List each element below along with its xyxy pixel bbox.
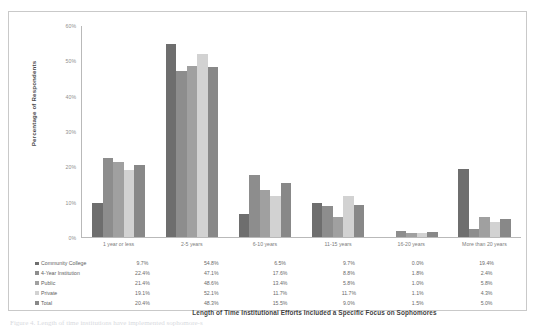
bar[interactable] [239, 214, 250, 237]
table-cell-value: 48.6% [177, 280, 246, 286]
legend-item[interactable]: Private [35, 290, 108, 296]
table-cell-value: 11.7% [314, 290, 383, 296]
table-cell-value: 19.1% [108, 290, 177, 296]
bar[interactable] [406, 233, 417, 237]
x-axis-category-label: 6-10 years [228, 241, 301, 247]
bar[interactable] [322, 206, 333, 237]
table-cell-value: 52.1% [177, 290, 246, 296]
legend-swatch-icon [35, 291, 39, 295]
table-cell-value: 21.4% [108, 280, 177, 286]
bar[interactable] [92, 203, 103, 237]
legend-item[interactable]: Total [35, 300, 108, 306]
y-axis-tick-label: 10% [66, 200, 76, 206]
bar-group [228, 26, 301, 237]
bar-group [375, 26, 448, 237]
x-axis-category-label: 2-5 years [155, 241, 228, 247]
bar[interactable] [197, 54, 208, 237]
bar[interactable] [458, 169, 469, 237]
y-axis-tick-label: 0% [69, 235, 77, 241]
bar[interactable] [343, 196, 354, 237]
legend-item-label: Community College [41, 260, 86, 266]
y-axis-tick-label: 30% [66, 129, 76, 135]
table-cell-value: 47.1% [177, 270, 246, 276]
bar[interactable] [281, 183, 292, 238]
bar[interactable] [333, 217, 344, 237]
legend-swatch-icon [35, 301, 39, 305]
y-axis-tick-label: 60% [66, 23, 76, 29]
table-row: Community College9.7%54.8%6.5%9.7%0.0%19… [35, 259, 521, 268]
x-axis-category-label: 1 year or less [82, 241, 155, 247]
bar-group [448, 26, 521, 237]
table-cell-value: 54.8% [177, 260, 246, 266]
legend-swatch-icon [35, 271, 39, 275]
table-cell-value: 15.5% [246, 300, 315, 306]
x-axis-category-label: 16-20 years [375, 241, 448, 247]
bar[interactable] [312, 203, 323, 237]
table-cell-value: 17.6% [246, 270, 315, 276]
table-cell-value: 48.3% [177, 300, 246, 306]
bar-group [82, 26, 155, 237]
bar-group [302, 26, 375, 237]
bar[interactable] [417, 233, 428, 237]
x-axis-title: Length of Time Institutional Efforts Inc… [108, 309, 521, 316]
table-cell-value: 9.0% [314, 300, 383, 306]
bar[interactable] [176, 71, 187, 237]
table-cell-value: 1.8% [383, 270, 452, 276]
bar[interactable] [249, 175, 260, 237]
table-cell-value: 5.8% [314, 280, 383, 286]
legend-item[interactable]: Public [35, 280, 108, 286]
table-cell-value: 8.8% [314, 270, 383, 276]
table-row: Public21.4%48.6%13.4%5.8%1.0%5.8% [35, 279, 521, 288]
bar-group [155, 26, 228, 237]
x-axis-line [81, 237, 521, 238]
table-row: Private19.1%52.1%11.7%11.7%1.1%4.3% [35, 289, 521, 298]
bar[interactable] [479, 217, 490, 237]
table-cell-value: 1.5% [383, 300, 452, 306]
bar[interactable] [490, 222, 501, 237]
bar[interactable] [166, 44, 177, 237]
bar[interactable] [396, 231, 407, 237]
x-axis-category-labels: 1 year or less2-5 years6-10 years11-15 y… [82, 241, 521, 247]
table-cell-value: 20.4% [108, 300, 177, 306]
bar[interactable] [187, 66, 198, 237]
table-cell-value: 9.7% [314, 260, 383, 266]
table-cell-value: 1.0% [383, 280, 452, 286]
table-cell-value: 19.4% [452, 260, 521, 266]
table-cell-value: 11.7% [246, 290, 315, 296]
bar[interactable] [208, 67, 219, 237]
bar[interactable] [124, 170, 135, 237]
bar-series-container [82, 26, 521, 237]
figure-frame: Percentage of Respondents 0%10%20%30%40%… [8, 11, 527, 311]
table-cell-value: 22.4% [108, 270, 177, 276]
legend-item[interactable]: 4-Year Institution [35, 270, 108, 276]
table-cell-value: 2.4% [452, 270, 521, 276]
bar[interactable] [270, 196, 281, 237]
table-row: 4-Year Institution22.4%47.1%17.6%8.8%1.8… [35, 269, 521, 278]
bar[interactable] [427, 232, 438, 237]
legend-item-label: 4-Year Institution [41, 270, 80, 276]
legend-item-label: Total [41, 300, 52, 306]
bar[interactable] [103, 158, 114, 237]
x-axis-category-label: More than 20 years [448, 241, 521, 247]
table-cell-value: 5.0% [452, 300, 521, 306]
bar[interactable] [134, 165, 145, 237]
legend-item[interactable]: Community College [35, 260, 108, 266]
table-cell-value: 9.7% [108, 260, 177, 266]
bar[interactable] [500, 219, 511, 237]
bar[interactable] [469, 229, 480, 237]
table-cell-value: 6.5% [246, 260, 315, 266]
y-axis-tick-label: 50% [66, 58, 76, 64]
y-axis-tick-label: 40% [66, 94, 76, 100]
table-row: Total20.4%48.3%15.5%9.0%1.5%5.0% [35, 299, 521, 308]
figure-caption: Figure 4. Length of time institutions ha… [10, 319, 430, 328]
bar[interactable] [113, 162, 124, 237]
bar[interactable] [260, 190, 271, 237]
x-axis-category-label: 11-15 years [302, 241, 375, 247]
table-cell-value: 0.0% [383, 260, 452, 266]
legend-item-label: Public [41, 280, 55, 286]
plot-area: 0%10%20%30%40%50%60% [81, 26, 521, 238]
table-cell-value: 1.1% [383, 290, 452, 296]
legend-swatch-icon [35, 281, 39, 285]
bar[interactable] [354, 205, 365, 237]
table-cell-value: 13.4% [246, 280, 315, 286]
